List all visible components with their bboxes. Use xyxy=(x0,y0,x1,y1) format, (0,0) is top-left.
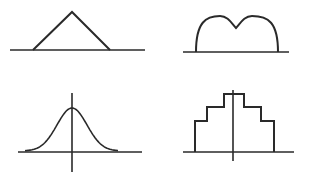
triangular-distribution-panel xyxy=(10,12,145,50)
stepped-histogram-panel xyxy=(183,90,294,161)
stepped-outline xyxy=(195,94,274,152)
triangle-shape xyxy=(33,12,110,50)
normal-distribution-panel xyxy=(18,93,142,172)
distribution-shapes-diagram xyxy=(0,0,309,180)
bimodal-distribution-panel xyxy=(183,16,289,52)
bimodal-curve xyxy=(196,16,278,52)
